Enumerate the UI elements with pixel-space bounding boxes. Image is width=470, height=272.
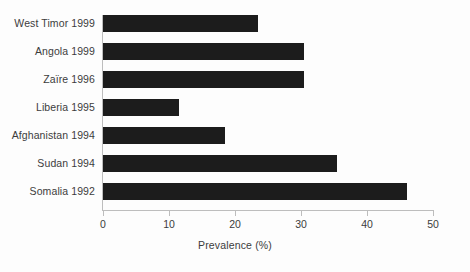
- bar-zaire-1996: [103, 71, 304, 88]
- category-label: Sudan 1994: [37, 155, 95, 172]
- tick-mark: [367, 211, 368, 216]
- category-label: Liberia 1995: [36, 99, 95, 116]
- bar-angola-1999: [103, 43, 304, 60]
- x-axis-title: Prevalence (%): [0, 239, 470, 251]
- category-axis-labels: West Timor 1999 Angola 1999 Zaïre 1996 L…: [0, 15, 99, 211]
- tick-label: 0: [100, 218, 106, 230]
- tick-mark: [235, 211, 236, 216]
- category-label: Zaïre 1996: [43, 71, 95, 88]
- category-label: Afghanistan 1994: [12, 127, 95, 144]
- tick-label: 10: [163, 218, 175, 230]
- plot-area: [103, 15, 433, 211]
- tick-label: 30: [295, 218, 307, 230]
- tick-mark: [169, 211, 170, 216]
- bar-somalia-1992: [103, 183, 407, 200]
- category-label: Angola 1999: [35, 43, 95, 60]
- bar-liberia-1995: [103, 99, 179, 116]
- category-label: Somalia 1992: [30, 183, 95, 200]
- bar-sudan-1994: [103, 155, 337, 172]
- tick-label: 40: [361, 218, 373, 230]
- tick-mark: [103, 211, 104, 216]
- bar-chart: West Timor 1999 Angola 1999 Zaïre 1996 L…: [0, 0, 470, 272]
- bar-afghanistan-1994: [103, 127, 225, 144]
- tick-label: 20: [229, 218, 241, 230]
- category-label: West Timor 1999: [14, 15, 95, 32]
- tick-mark: [301, 211, 302, 216]
- tick-label: 50: [427, 218, 439, 230]
- bar-west-timor-1999: [103, 15, 258, 32]
- tick-mark: [433, 211, 434, 216]
